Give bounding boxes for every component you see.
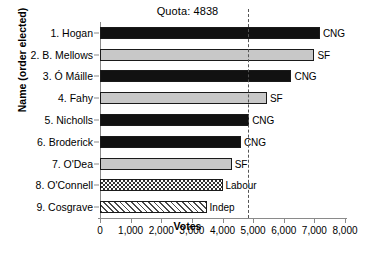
y-axis-tick: [94, 163, 99, 164]
category-label: 1. Hogan: [50, 27, 93, 39]
bar-row: 4. FahySF: [100, 87, 345, 109]
bar: Indep: [100, 201, 207, 213]
bar-party-label: CNG: [252, 114, 274, 125]
quota-line: [248, 9, 249, 218]
y-axis-tick: [94, 185, 99, 186]
y-axis-tick: [94, 98, 99, 99]
bar: Labour: [100, 179, 223, 191]
bar: SF: [100, 158, 232, 170]
y-axis-tick: [94, 141, 99, 142]
bar: SF: [100, 49, 314, 61]
y-axis-title: Name (order elected): [16, 0, 28, 140]
bar-party-label: SF: [270, 93, 283, 104]
category-label: 2. B. Mellows: [31, 49, 93, 61]
bar-row: 7. O'DeaSF: [100, 153, 345, 175]
category-label: 7. O'Dea: [52, 158, 93, 170]
bar-party-label: Indep: [210, 202, 235, 213]
plot-area: 1. HoganCNG2. B. MellowsSF3. Ó MáilleCNG…: [100, 22, 345, 218]
bar: SF: [100, 92, 267, 104]
category-label: 4. Fahy: [58, 92, 93, 104]
y-axis-tick: [94, 207, 99, 208]
y-axis-tick: [94, 119, 99, 120]
bar-party-label: SF: [235, 158, 248, 169]
bar-party-label: CNG: [294, 71, 316, 82]
y-axis-tick: [94, 76, 99, 77]
chart-title: Quota: 4838: [0, 5, 375, 17]
bar-party-label: CNG: [323, 27, 345, 38]
bar-row: 9. CosgraveIndep: [100, 196, 345, 218]
bar-row: 5. NichollsCNG: [100, 109, 345, 131]
bar: CNG: [100, 70, 291, 82]
category-label: 8. O'Connell: [36, 179, 93, 191]
bar-row: 6. BroderickCNG: [100, 131, 345, 153]
bar-row: 1. HoganCNG: [100, 22, 345, 44]
bar: CNG: [100, 114, 249, 126]
vote-bar-chart: Quota: 4838 Name (order elected) 1. Hoga…: [0, 0, 375, 266]
category-label: 6. Broderick: [37, 136, 93, 148]
bar-row: 8. O'ConnellLabour: [100, 174, 345, 196]
category-label: 5. Nicholls: [45, 114, 93, 126]
category-label: 3. Ó Máille: [43, 70, 93, 82]
category-label: 9. Cosgrave: [36, 201, 93, 213]
x-axis-title: Votes: [0, 220, 375, 232]
bar-row: 3. Ó MáilleCNG: [100, 66, 345, 88]
bar: CNG: [100, 27, 320, 39]
bar-party-label: SF: [317, 49, 330, 60]
y-axis-tick: [94, 32, 99, 33]
bar: CNG: [100, 136, 241, 148]
bar-party-label: Labour: [226, 180, 257, 191]
y-axis-tick: [94, 54, 99, 55]
bar-row: 2. B. MellowsSF: [100, 44, 345, 66]
